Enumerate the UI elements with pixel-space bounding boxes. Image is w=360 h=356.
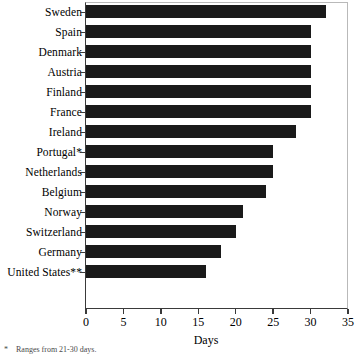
bar <box>86 245 221 258</box>
y-axis-tick <box>80 132 85 134</box>
category-label: Netherlands <box>25 162 82 182</box>
x-axis-tick <box>272 309 274 314</box>
x-axis-tick-label: 25 <box>267 315 279 330</box>
category-label: Denmark <box>39 42 83 62</box>
bar <box>86 205 243 218</box>
footnote: *Ranges from 21-30 days. <box>4 345 360 355</box>
category-label: Norway <box>44 202 82 222</box>
category-label: France <box>50 102 82 122</box>
category-label: Ireland <box>49 122 82 142</box>
chart-row: Germany <box>0 242 360 262</box>
x-axis-tick-label: 0 <box>83 315 89 330</box>
chart-row: Spain <box>0 22 360 42</box>
chart-row: Denmark <box>0 42 360 62</box>
category-label: Austria <box>47 62 82 82</box>
x-axis-tick <box>123 309 125 314</box>
category-label: Germany <box>39 242 83 262</box>
footnote-marker: * <box>4 345 16 355</box>
x-axis-tick <box>235 309 237 314</box>
x-axis-tick <box>85 309 87 314</box>
y-axis-tick <box>80 252 85 254</box>
bar <box>86 265 206 278</box>
chart-row: Finland <box>0 82 360 102</box>
x-axis-tick <box>347 309 349 314</box>
category-label: Finland <box>46 82 82 102</box>
chart-row: France <box>0 102 360 122</box>
bar <box>86 185 266 198</box>
x-axis-tick-label: 30 <box>305 315 317 330</box>
bar <box>86 165 273 178</box>
chart-row: Sweden <box>0 2 360 22</box>
category-label: Spain <box>55 22 82 42</box>
x-axis-tick-label: 20 <box>230 315 242 330</box>
x-axis-tick-label: 35 <box>342 315 354 330</box>
y-axis-tick <box>80 152 85 154</box>
x-axis-tick-label: 10 <box>155 315 167 330</box>
chart-row: Norway <box>0 202 360 222</box>
bar <box>86 45 311 58</box>
chart-row: Netherlands <box>0 162 360 182</box>
x-axis-tick-label: 5 <box>120 315 126 330</box>
bar <box>86 145 273 158</box>
footnote-block: *Ranges from 21-30 days. <box>4 345 360 355</box>
x-axis-tick <box>198 309 200 314</box>
bar <box>86 65 311 78</box>
y-axis-tick <box>80 92 85 94</box>
chart-row: Belgium <box>0 182 360 202</box>
y-axis-tick <box>80 212 85 214</box>
bar <box>86 25 311 38</box>
chart-row: Ireland <box>0 122 360 142</box>
y-axis-tick <box>80 12 85 14</box>
y-axis-tick <box>80 192 85 194</box>
chart-rows: SwedenSpainDenmarkAustriaFinlandFranceIr… <box>0 2 360 282</box>
chart-row: Austria <box>0 62 360 82</box>
bar <box>86 105 311 118</box>
category-label: Portugal* <box>36 142 82 162</box>
y-axis-tick <box>80 112 85 114</box>
category-label: Sweden <box>45 2 82 22</box>
bar <box>86 85 311 98</box>
x-axis-tick-label: 15 <box>192 315 204 330</box>
y-axis-tick <box>80 172 85 174</box>
y-axis-tick <box>80 272 85 274</box>
x-axis-tick <box>310 309 312 314</box>
chart-row: Portugal* <box>0 142 360 162</box>
chart-row: United States** <box>0 262 360 282</box>
category-label: Switzerland <box>26 222 82 242</box>
y-axis-tick <box>80 232 85 234</box>
bar <box>86 125 296 138</box>
chart-row: Switzerland <box>0 222 360 242</box>
y-axis-tick <box>80 32 85 34</box>
footnote-text: Ranges from 21-30 days. <box>16 345 96 354</box>
bar-chart: SwedenSpainDenmarkAustriaFinlandFranceIr… <box>0 0 360 356</box>
y-axis-tick <box>80 72 85 74</box>
category-label: Belgium <box>42 182 82 202</box>
bar <box>86 225 236 238</box>
category-label: United States** <box>7 262 82 282</box>
y-axis-tick <box>80 52 85 54</box>
x-axis-tick <box>160 309 162 314</box>
bar <box>86 5 326 18</box>
